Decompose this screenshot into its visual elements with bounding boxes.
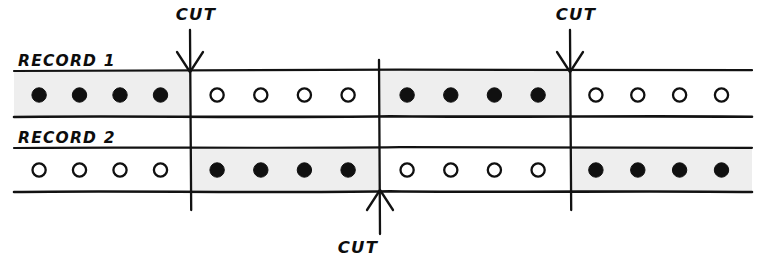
open-dot — [631, 88, 644, 101]
diagram-canvas: RECORD 1 RECORD 2 CUTCUTCUT — [0, 0, 758, 264]
filled-dot — [531, 88, 545, 102]
open-dot — [154, 163, 167, 176]
cut-1-line — [190, 30, 191, 210]
filled-dot — [631, 163, 645, 177]
cut-3-line — [570, 30, 571, 210]
filled-dot — [297, 163, 311, 177]
filled-dot — [714, 163, 728, 177]
open-dot — [673, 88, 686, 101]
filled-dot — [153, 88, 167, 102]
filled-dot — [589, 163, 603, 177]
cut-2-label: CUT — [338, 238, 379, 257]
record-2-label-underline — [14, 147, 752, 148]
open-dot — [298, 88, 311, 101]
filled-dot — [32, 88, 46, 102]
cut-2-line — [379, 60, 380, 234]
filled-dot — [254, 163, 268, 177]
open-dot — [113, 163, 126, 176]
open-dot — [342, 88, 355, 101]
record-2-label: RECORD 2 — [18, 129, 116, 147]
filled-dot — [72, 88, 86, 102]
cut-3-label: CUT — [556, 5, 597, 24]
filled-dot — [487, 88, 501, 102]
open-dot — [444, 163, 457, 176]
filled-dot — [113, 88, 127, 102]
record-cut-diagram: RECORD 1 RECORD 2 CUTCUTCUT — [0, 0, 758, 264]
record-1-label: RECORD 1 — [18, 52, 116, 70]
open-dot — [715, 88, 728, 101]
open-dot — [211, 88, 224, 101]
open-dot — [33, 163, 46, 176]
cut-1-label: CUT — [176, 5, 217, 24]
open-dot — [401, 163, 414, 176]
open-dot — [532, 163, 545, 176]
open-dot — [254, 88, 267, 101]
record-1-band-bottom-edge — [14, 116, 752, 117]
open-dot — [488, 163, 501, 176]
filled-dot — [341, 163, 355, 177]
record-2-band-bottom-edge — [14, 191, 752, 192]
filled-dot — [210, 163, 224, 177]
open-dot — [589, 88, 602, 101]
filled-dot — [400, 88, 414, 102]
filled-dot — [444, 88, 458, 102]
filled-dot — [672, 163, 686, 177]
cut-marker-layer: CUTCUTCUT — [176, 5, 597, 257]
open-dot — [73, 163, 86, 176]
